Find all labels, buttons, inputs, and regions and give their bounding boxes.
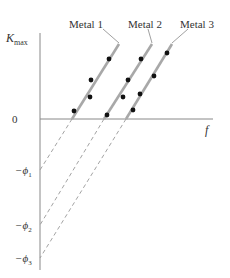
metal-3-point bbox=[165, 51, 170, 56]
metal-1-point bbox=[88, 95, 93, 100]
intercept-label-phi2: −ϕ2 bbox=[15, 219, 32, 234]
metal-2-point bbox=[139, 57, 144, 62]
metal-2-extrapolation bbox=[40, 119, 104, 225]
metal-2-point bbox=[121, 95, 126, 100]
intercept-label-phi3: −ϕ3 bbox=[15, 252, 32, 267]
metal-3-point bbox=[152, 74, 157, 79]
intercept-label-phi1: −ϕ1 bbox=[15, 164, 32, 179]
metal-1-leader bbox=[103, 29, 119, 43]
y-axis-label: Kmax bbox=[5, 31, 28, 47]
metal-2-label: Metal 2 bbox=[128, 18, 162, 30]
metal-1-extrapolation bbox=[40, 119, 72, 170]
data-points bbox=[72, 51, 170, 118]
metal-3-extrapolation bbox=[40, 119, 126, 258]
metal-1-point bbox=[72, 109, 77, 114]
kmax-vs-frequency-diagram: Kmax 0 f −ϕ1 −ϕ2 −ϕ3 bbox=[0, 0, 230, 278]
metal-3-label: Metal 3 bbox=[180, 18, 214, 30]
metal-3-leader bbox=[172, 29, 188, 43]
metal-1-point bbox=[107, 57, 112, 62]
metal-2-point bbox=[105, 113, 110, 118]
origin-label: 0 bbox=[12, 113, 18, 125]
metal-3-point bbox=[131, 108, 136, 113]
metal-2-leader bbox=[148, 29, 152, 43]
axes bbox=[40, 33, 213, 270]
metal-1-point bbox=[89, 78, 94, 83]
fit-lines bbox=[72, 44, 172, 119]
metal-3-point bbox=[138, 92, 143, 97]
leader-lines bbox=[103, 29, 188, 43]
x-axis-label: f bbox=[205, 123, 210, 137]
dashed-extrapolations bbox=[40, 119, 126, 258]
metal-2-point bbox=[126, 78, 131, 83]
metal-1-label: Metal 1 bbox=[69, 18, 103, 30]
